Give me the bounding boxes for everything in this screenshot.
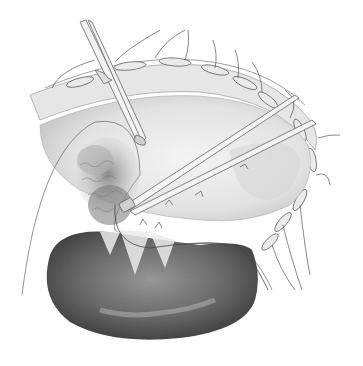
surgical-illustration <box>0 0 363 366</box>
kidney-organ <box>47 230 258 340</box>
illustration-svg <box>0 0 363 366</box>
